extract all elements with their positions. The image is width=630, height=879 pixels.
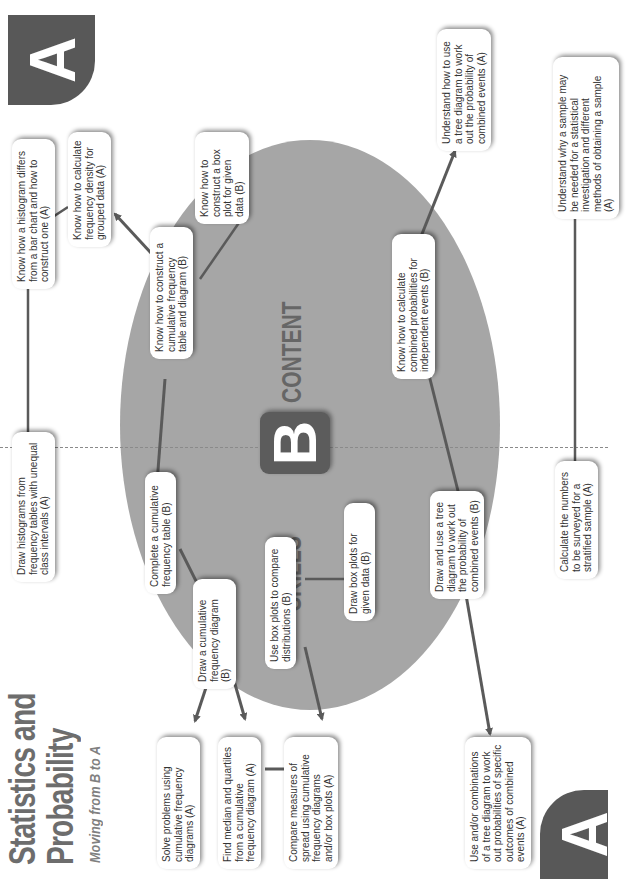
title-line-1: Statistics and: [4, 631, 42, 865]
node-draw-tree: Draw and use a tree diagram to work out …: [430, 491, 484, 599]
node-freq-density: Know how to calculate frequency density …: [68, 132, 111, 247]
node-histogram-diff: Know how a histogram differs from a bar …: [12, 139, 55, 289]
node-combined-prob: Know how to calculate combined probabili…: [392, 234, 435, 379]
node-understand-tree: Understand how to use a tree diagram to …: [437, 29, 491, 151]
node-solve-problems: Solve problems using cumulative frequenc…: [157, 737, 200, 869]
title-line-2: Probability: [42, 631, 80, 865]
node-draw-histograms: Draw histograms from frequency tables wi…: [12, 432, 55, 582]
node-calc-stratified: Calculate the numbers to be surveyed for…: [555, 461, 598, 579]
node-compare-spread: Compare measures of spread using cumulat…: [284, 737, 338, 869]
node-draw-cum-diagram: Draw a cumulative frequency diagram (B): [193, 579, 236, 689]
page-title: Statistics and Probability: [4, 631, 80, 865]
content-label: CONTENT: [276, 302, 308, 403]
node-construct-cum: Know how to construct a cumulative frequ…: [150, 227, 193, 359]
node-use-combinations: Use and/or combinations of a tree diagra…: [465, 737, 531, 869]
node-understand-sample: Understand why a sample may be needed fo…: [553, 57, 619, 219]
node-draw-box-plots: Draw box plots for given data (B): [344, 503, 375, 621]
level-a-badge-top: A: [8, 15, 95, 105]
node-construct-box: Know how to construct a box plot for giv…: [195, 132, 249, 224]
node-complete-cum-table: Complete a cumulative frequency table (B…: [145, 472, 176, 594]
page-subtitle: Moving from B to A: [86, 746, 103, 863]
node-find-median: Find median and quartiles from a cumulat…: [218, 737, 261, 869]
node-use-box-plots: Use box plots to compare distributions (…: [265, 537, 296, 669]
level-b-badge: B: [260, 412, 330, 474]
